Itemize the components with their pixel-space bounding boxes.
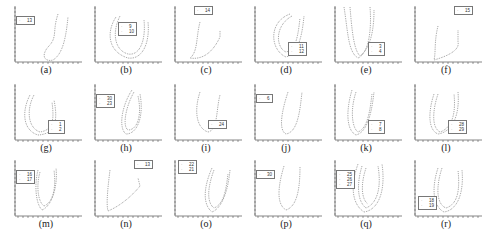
legend-label: 24 xyxy=(219,122,224,127)
marker-icon: · xyxy=(137,162,145,167)
marker-icon: · xyxy=(19,177,27,182)
marker-icon: · xyxy=(421,203,429,208)
legend: ·18·19 xyxy=(418,196,437,210)
subplot-caption: (l) xyxy=(408,142,484,153)
plot-area xyxy=(248,80,324,144)
subplot-g: ·1·2(g) xyxy=(8,80,84,158)
marker-icon: · xyxy=(259,96,267,101)
marker-icon: · xyxy=(19,18,27,23)
legend-entry: ·23 xyxy=(99,101,112,106)
legend-label: 17 xyxy=(27,177,32,182)
subplot-i: ·24(i) xyxy=(168,80,244,158)
plot-area xyxy=(8,80,84,144)
plot-area xyxy=(8,156,84,220)
subplot-o: ·22·21(o) xyxy=(168,156,244,234)
legend-entry: ·8 xyxy=(371,127,382,132)
legend-label: 13 xyxy=(27,18,32,23)
subplot-caption: (d) xyxy=(248,64,324,75)
legend-entry: ·13 xyxy=(19,18,32,23)
subplot-j: ·6(j) xyxy=(248,80,324,158)
legend: ·28·29 xyxy=(448,120,467,134)
subplot-q: ·25·26·27(q) xyxy=(328,156,404,234)
subplot-caption: (r) xyxy=(408,218,484,229)
subplot-k: ·7·8(k) xyxy=(328,80,404,158)
legend: ·9·10 xyxy=(118,22,137,36)
subplot-f: ·15(f) xyxy=(408,2,484,80)
plot-area xyxy=(248,156,324,220)
subplot-caption: (g) xyxy=(8,142,84,153)
plot-area xyxy=(168,80,244,144)
legend: ·22·21 xyxy=(178,160,197,174)
subplot-b: ·9·10(b) xyxy=(88,2,164,80)
legend: ·6 xyxy=(256,94,273,103)
subplot-a: ·13(a) xyxy=(8,2,84,80)
legend-entry: ·27 xyxy=(339,182,352,187)
marker-icon: · xyxy=(51,127,59,132)
legend-entry: ·12 xyxy=(291,49,304,54)
marker-icon: · xyxy=(121,29,129,34)
legend-label: 21 xyxy=(189,167,194,172)
marker-icon: · xyxy=(259,172,267,177)
legend-label: 4 xyxy=(379,49,382,54)
subplot-caption: (k) xyxy=(328,142,404,153)
subplot-d: ·11·12(d) xyxy=(248,2,324,80)
legend-entry: ·29 xyxy=(451,127,464,132)
legend: ·13 xyxy=(134,160,153,169)
legend: ·1·2 xyxy=(48,120,65,134)
subplot-caption: (c) xyxy=(168,64,244,75)
plot-area xyxy=(328,80,404,144)
legend-entry: ·15 xyxy=(457,8,470,13)
subplot-caption: (a) xyxy=(8,64,84,75)
legend: ·25·26·27 xyxy=(336,170,355,189)
legend-entry: ·24 xyxy=(211,122,224,127)
marker-icon: · xyxy=(371,49,379,54)
legend-entry: ·6 xyxy=(259,96,270,101)
legend-label: 14 xyxy=(205,8,210,13)
subplot-caption: (q) xyxy=(328,218,404,229)
subplot-e: ·3·4(e) xyxy=(328,2,404,80)
subplot-c: ·14(c) xyxy=(168,2,244,80)
legend-entry: ·4 xyxy=(371,49,382,54)
subplot-r: ·18·19(r) xyxy=(408,156,484,234)
plot-area xyxy=(88,80,164,144)
subplot-caption: (m) xyxy=(8,218,84,229)
legend-label: 29 xyxy=(459,127,464,132)
subplot-caption: (j) xyxy=(248,142,324,153)
subplot-caption: (e) xyxy=(328,64,404,75)
legend-entry: ·13 xyxy=(137,162,150,167)
legend-entry: ·21 xyxy=(181,167,194,172)
plot-area xyxy=(408,80,484,144)
marker-icon: · xyxy=(211,122,219,127)
legend-entry: ·17 xyxy=(19,177,32,182)
marker-icon: · xyxy=(339,182,347,187)
subplot-caption: (n) xyxy=(88,218,164,229)
subplot-p: ·30(p) xyxy=(248,156,324,234)
legend-label: 13 xyxy=(145,162,150,167)
legend: ·15 xyxy=(454,6,473,15)
legend-label: 23 xyxy=(107,101,112,106)
legend: ·3·4 xyxy=(368,42,385,56)
marker-icon: · xyxy=(291,49,299,54)
marker-icon: · xyxy=(451,127,459,132)
legend: ·24 xyxy=(208,120,227,129)
plot-area xyxy=(408,156,484,220)
plot-area xyxy=(8,2,84,66)
subplot-caption: (h) xyxy=(88,142,164,153)
legend-entry: ·19 xyxy=(421,203,434,208)
legend: ·16·17 xyxy=(16,170,35,184)
marker-icon: · xyxy=(181,167,189,172)
legend: ·30 xyxy=(256,170,275,179)
legend-label: 27 xyxy=(347,182,352,187)
legend: ·13 xyxy=(16,16,35,25)
legend: ·30·23 xyxy=(96,94,115,108)
subplot-caption: (b) xyxy=(88,64,164,75)
subplot-caption: (o) xyxy=(168,218,244,229)
subplot-caption: (i) xyxy=(168,142,244,153)
subplot-caption: (f) xyxy=(408,64,484,75)
subplot-l: ·28·29(l) xyxy=(408,80,484,158)
marker-icon: · xyxy=(99,101,107,106)
legend: ·14 xyxy=(194,6,213,15)
legend: ·7·8 xyxy=(368,120,385,134)
subplot-h: ·30·23(h) xyxy=(88,80,164,158)
legend-label: 8 xyxy=(379,127,382,132)
